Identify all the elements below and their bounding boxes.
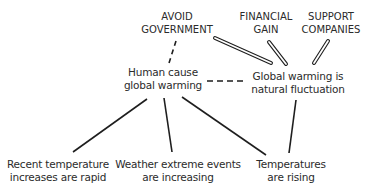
- node-support-companies: SUPPORT COMPANIES: [302, 10, 361, 36]
- node-avoid-government: AVOID GOVERNMENT: [141, 10, 213, 36]
- node-line: global warming: [124, 79, 202, 92]
- edge-avoid-to-human: [169, 41, 176, 63]
- node-line: SUPPORT: [302, 10, 361, 23]
- edge-financial-to-natural: [269, 42, 286, 64]
- node-line: natural fluctuation: [251, 83, 344, 96]
- node-line: increases are rapid: [7, 171, 109, 184]
- node-financial-gain: FINANCIAL GAIN: [240, 10, 293, 36]
- node-line: COMPANIES: [302, 23, 361, 36]
- node-line: GOVERNMENT: [141, 23, 213, 36]
- node-line: Global warming is: [251, 70, 344, 83]
- node-line: GAIN: [240, 23, 293, 36]
- node-weather-extremes: Weather extreme events are increasing: [115, 158, 241, 184]
- node-temperatures-rising: Temperatures are rising: [256, 158, 326, 184]
- edge-rising-to-natural: [289, 100, 296, 153]
- node-line: Recent temperature: [7, 158, 109, 171]
- edge-recent-to-human: [73, 99, 147, 152]
- edge-support-to-natural: [314, 41, 328, 63]
- argument-diagram: AVOID GOVERNMENT FINANCIAL GAIN SUPPORT …: [0, 0, 374, 190]
- node-line: Temperatures: [256, 158, 326, 171]
- node-line: are rising: [256, 171, 326, 184]
- node-human-cause: Human cause global warming: [124, 66, 202, 92]
- edge-avoid-to-natural: [215, 38, 271, 63]
- node-line: Weather extreme events: [115, 158, 241, 171]
- node-line: Human cause: [124, 66, 202, 79]
- edge-weather-to-human: [164, 98, 172, 152]
- node-natural-fluctuation: Global warming is natural fluctuation: [251, 70, 344, 96]
- node-line: FINANCIAL: [240, 10, 293, 23]
- node-line: are increasing: [115, 171, 241, 184]
- node-line: AVOID: [141, 10, 213, 23]
- edge-rising-to-human: [182, 97, 266, 155]
- node-recent-rapid: Recent temperature increases are rapid: [7, 158, 109, 184]
